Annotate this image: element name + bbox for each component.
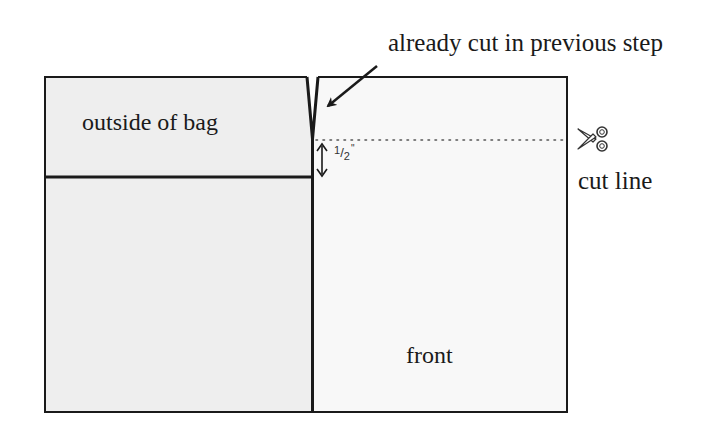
measurement-label: 1/2" (334, 146, 354, 159)
outside-of-bag-label: outside of bag (82, 110, 218, 134)
measurement-numerator: 1 (334, 144, 340, 156)
callout-label: already cut in previous step (388, 30, 663, 55)
front-label: front (406, 343, 453, 367)
scissors-icon (578, 127, 607, 151)
cut-line-label: cut line (578, 168, 652, 193)
diagram-canvas (0, 0, 713, 441)
measurement-unit: " (351, 143, 355, 154)
bag-cutting-diagram: already cut in previous step outside of … (0, 0, 713, 441)
measurement-denominator: 2 (344, 150, 350, 162)
